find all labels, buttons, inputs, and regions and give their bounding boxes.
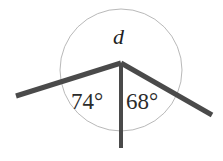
left-angle-label: 74° — [71, 90, 103, 113]
reflex-angle-label: d — [113, 26, 124, 48]
right-angle-label: 68° — [126, 90, 158, 113]
left-arm-ray — [16, 63, 121, 96]
figure-canvas — [0, 0, 223, 161]
geometry-figure: d 74° 68° — [0, 0, 223, 161]
